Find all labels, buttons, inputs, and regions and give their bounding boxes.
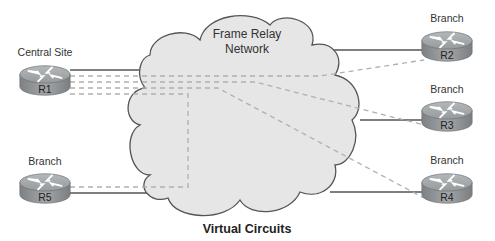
router-r2-role: Branch	[430, 12, 463, 24]
router-r1-role: Central Site	[18, 46, 73, 58]
router-r4-role: Branch	[430, 154, 463, 166]
router-r4-name: R4	[440, 191, 453, 203]
router-r5-role: Branch	[28, 155, 61, 167]
network-label-line1: Frame Relay	[213, 27, 282, 42]
diagram-caption: Virtual Circuits	[203, 222, 292, 236]
router-r5-name: R5	[38, 191, 51, 203]
router-r3-role: Branch	[430, 83, 463, 95]
router-r2-name: R2	[440, 49, 453, 61]
router-r1-name: R1	[38, 83, 51, 95]
router-r3-name: R3	[440, 119, 453, 131]
network-label-line2: Network	[213, 42, 282, 57]
network-label: Frame Relay Network	[213, 27, 282, 57]
